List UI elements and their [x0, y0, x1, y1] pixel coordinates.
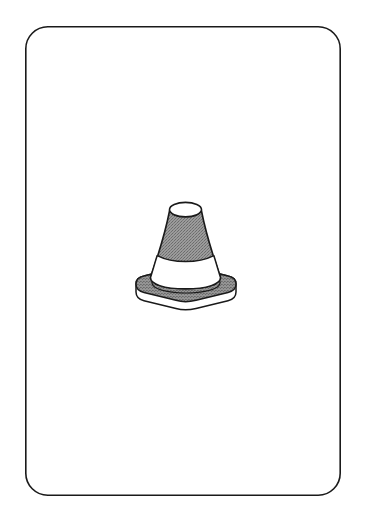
illustration-canvas: Traffic Cone Line Drawing traffic cone b… [0, 0, 366, 521]
cone-top-opening [170, 202, 202, 216]
traffic-cone-illustration [0, 0, 366, 521]
